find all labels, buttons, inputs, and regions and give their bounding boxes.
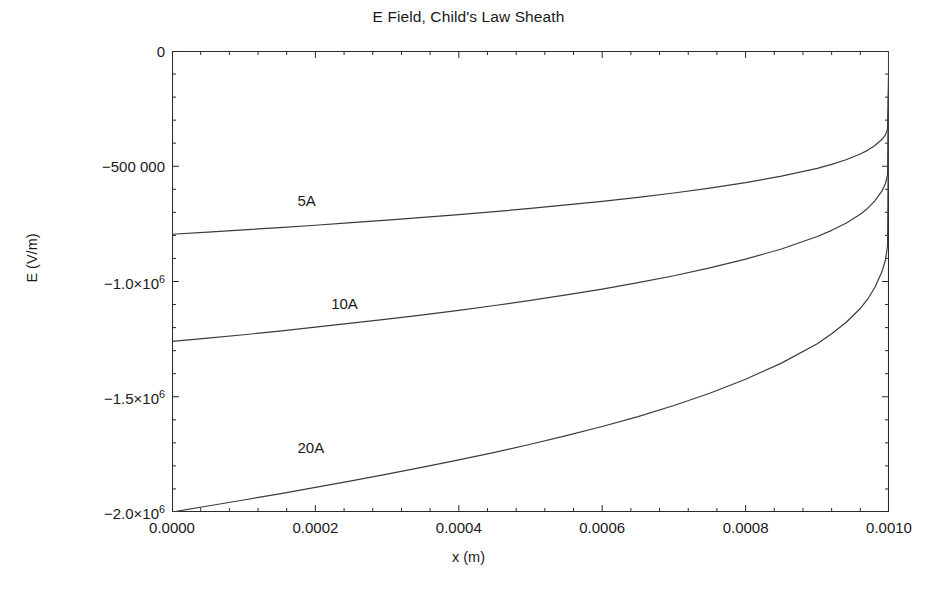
x-tick-label: 0.0010	[866, 519, 912, 536]
y-tick-label: −1.5×106	[104, 387, 165, 406]
plot-axes-area	[172, 51, 889, 512]
curve-10a	[172, 51, 889, 341]
plot-canvas	[172, 51, 889, 512]
curve-label-20a: 20A	[297, 439, 324, 456]
y-tick-label: −1.0×106	[104, 272, 165, 291]
x-axis-tick-labels: 0.00000.00020.00040.00060.00080.0010	[0, 519, 937, 543]
curve-5a	[172, 51, 889, 234]
curve-20a	[172, 51, 889, 512]
x-axis-label: x (m)	[0, 549, 937, 565]
curve-label-10a: 10A	[331, 295, 358, 312]
axes-frame	[172, 51, 889, 512]
y-tick-label: −500 000	[102, 158, 165, 175]
x-tick-label: 0.0002	[292, 519, 338, 536]
x-tick-label: 0.0006	[579, 519, 625, 536]
x-tick-label: 0.0004	[436, 519, 482, 536]
data-curves	[172, 51, 889, 512]
plot-figure: E Field, Child's Law Sheath 0−500 000−1.…	[0, 0, 937, 592]
y-axis-label: E (V/m)	[24, 203, 40, 313]
y-tick-label: 0	[157, 43, 165, 60]
axis-ticks	[172, 51, 889, 512]
x-tick-label: 0.0000	[149, 519, 195, 536]
x-tick-label: 0.0008	[723, 519, 769, 536]
curve-label-5a: 5A	[297, 192, 315, 209]
